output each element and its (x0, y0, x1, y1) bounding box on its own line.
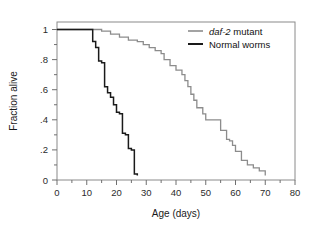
survival-curve-daf2-mutant (57, 30, 265, 176)
y-axis-tick-labels: 1.8.6.4.20 (40, 24, 48, 185)
legend-label-daf2-mutant: daf-2 mutant (209, 26, 263, 37)
legend-label-normal-worms: Normal worms (209, 39, 270, 50)
y-axis-title: Fraction alive (8, 71, 19, 131)
chart-canvas: 01020304050607080 1.8.6.4.20 Age (days) … (0, 0, 314, 228)
chart-legend: daf-2 mutantNormal worms (188, 26, 270, 50)
x-tick-label: 0 (54, 187, 59, 198)
x-tick-label: 50 (200, 187, 211, 198)
x-tick-label: 10 (81, 187, 92, 198)
legend-gene-name: daf-2 (209, 26, 231, 37)
x-tick-label: 40 (171, 187, 182, 198)
x-tick-label: 60 (230, 187, 241, 198)
x-axis-tick-labels: 01020304050607080 (54, 187, 300, 198)
y-axis-ticks (52, 30, 57, 180)
survival-curve-figure: 01020304050607080 1.8.6.4.20 Age (days) … (0, 0, 314, 228)
x-tick-label: 30 (141, 187, 152, 198)
x-axis-title: Age (days) (152, 208, 200, 219)
legend-label-text: mutant (231, 26, 263, 37)
y-tick-label: .2 (40, 144, 48, 155)
y-tick-label: 1 (43, 24, 48, 35)
survival-curve-normal-worms (57, 30, 137, 176)
y-tick-label: .8 (40, 54, 48, 65)
y-tick-label: .4 (40, 114, 48, 125)
x-tick-label: 70 (260, 187, 271, 198)
x-tick-label: 20 (111, 187, 122, 198)
legend-label-text: Normal worms (209, 39, 270, 50)
y-tick-label: 0 (43, 175, 48, 186)
x-axis-ticks (57, 180, 295, 185)
data-series-group (57, 30, 265, 176)
x-tick-label: 80 (290, 187, 301, 198)
y-tick-label: .6 (40, 84, 48, 95)
